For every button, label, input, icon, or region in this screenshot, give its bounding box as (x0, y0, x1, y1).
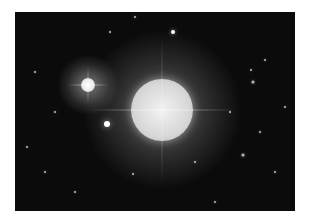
star (54, 111, 56, 113)
star (44, 171, 46, 173)
star (264, 59, 266, 61)
star (242, 154, 245, 157)
star (134, 16, 136, 18)
star (274, 171, 276, 173)
star-field-photo (15, 12, 295, 211)
star (252, 81, 255, 84)
star (194, 161, 196, 163)
star (104, 121, 110, 127)
star (259, 131, 261, 133)
star (171, 30, 175, 34)
star (229, 111, 231, 113)
star (214, 201, 216, 203)
secondary-star-spike-vertical (88, 67, 89, 103)
star (34, 71, 36, 73)
star (132, 173, 134, 175)
star (26, 146, 28, 148)
star (250, 69, 252, 71)
star (284, 106, 286, 108)
main-star-spike-vertical (162, 35, 163, 185)
star (74, 191, 76, 193)
star (109, 31, 111, 33)
